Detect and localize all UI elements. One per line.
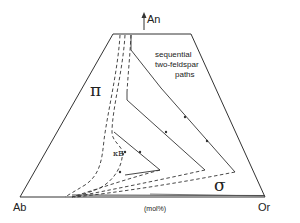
an-arrow-icon [142,12,147,30]
annotation-text: sequential two-feldspar paths [155,50,199,80]
annotation-line-3: paths [155,70,199,80]
kappa-e-label: κE [113,150,124,158]
direction-arrow-icons [119,116,208,173]
dashed-path-3 [127,35,131,92]
vertex-label-an: An [147,14,160,25]
vertex-label-ab: Ab [13,202,26,213]
feldspar-diagram [0,0,300,223]
field-label-pi: π [90,82,101,99]
dashed-return-outer [76,172,235,197]
annotation-line-2: two-feldspar [155,60,199,70]
vertex-label-or: Or [258,202,270,213]
field-label-sigma: σ [214,177,226,194]
dashed-return-middle [74,170,205,197]
annotation-line-1: sequential [155,50,199,60]
dashed-path-1 [65,35,120,197]
units-label: (mol%) [144,205,166,212]
